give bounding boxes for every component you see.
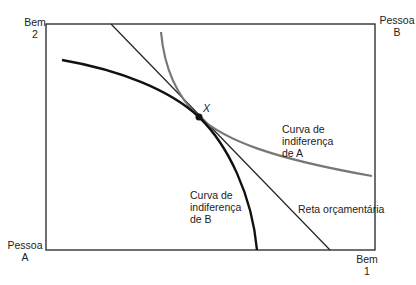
curve-b-label: Curva de indiferença de B (190, 189, 241, 225)
point-x-label: X (203, 102, 210, 114)
tangency-point-x (196, 114, 203, 121)
curve-b-label-line3: de B (190, 213, 241, 225)
top-left-axis-label: Bem 2 (20, 16, 50, 40)
bottom-right-axis-label: Bem 1 (352, 253, 382, 277)
curve-b-label-line2: indiferença (190, 201, 241, 213)
curve-b-label-line1: Curva de (190, 189, 241, 201)
curve-a-label: Curva de indiferença de A (282, 123, 333, 159)
bottom-right-label-line2: 1 (352, 265, 382, 277)
top-left-label-line2: 2 (20, 28, 50, 40)
curve-a-label-line2: indiferença (282, 135, 333, 147)
bottom-left-label-line1: Pessoa (6, 239, 44, 251)
curve-a-label-line3: de A (282, 147, 333, 159)
budget-line-label: Reta orçamentária (298, 203, 384, 215)
bottom-left-label-line2: A (6, 251, 44, 263)
top-right-label-line1: Pessoa (378, 14, 416, 26)
bottom-left-corner-label: Pessoa A (6, 239, 44, 263)
top-right-label-line2: B (378, 26, 416, 38)
bottom-right-label-line1: Bem (352, 253, 382, 265)
top-right-corner-label: Pessoa B (378, 14, 416, 38)
edgeworth-box-diagram (0, 0, 416, 285)
top-left-label-line1: Bem (20, 16, 50, 28)
indifference-curve-a (161, 32, 372, 176)
curve-a-label-line1: Curva de (282, 123, 333, 135)
